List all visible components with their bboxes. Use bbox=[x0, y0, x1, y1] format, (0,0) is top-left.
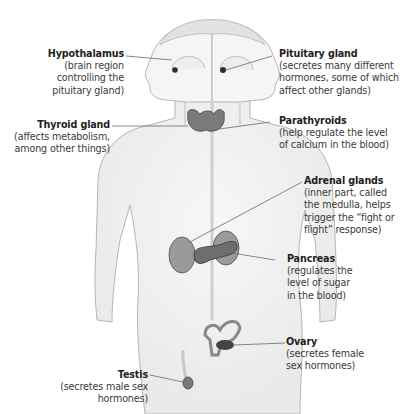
label-desc: flight” response) bbox=[304, 224, 415, 236]
label-desc: pituitary gland) bbox=[36, 85, 124, 97]
endocrine-diagram: Hypothalamus (brain region controlling t… bbox=[0, 0, 415, 414]
left-kidney-adrenal bbox=[169, 237, 195, 273]
label-desc: (affects metabolism, bbox=[2, 131, 110, 143]
label-desc: (inner part, called bbox=[304, 187, 415, 199]
label-title: Ovary bbox=[286, 336, 414, 348]
label-desc: (help regulate the level bbox=[279, 127, 415, 139]
label-title: Pituitary gland bbox=[279, 48, 415, 60]
label-desc: hormones, some of which bbox=[279, 72, 415, 84]
label-desc: sex hormones) bbox=[286, 360, 414, 372]
label-desc: (brain region bbox=[36, 60, 124, 72]
label-title: Adrenal glands bbox=[304, 175, 415, 187]
thyroid-gland bbox=[188, 110, 225, 132]
label-desc: hormones) bbox=[30, 393, 148, 405]
label-ovary: Ovary (secretes female sex hormones) bbox=[286, 336, 414, 373]
label-desc: (secretes male sex bbox=[30, 381, 148, 393]
label-testis: Testis (secretes male sex hormones) bbox=[30, 369, 148, 406]
testis-gland bbox=[183, 377, 193, 389]
label-parathyroids: Parathyroids (help regulate the level of… bbox=[279, 115, 415, 152]
label-desc: level of sugar bbox=[287, 277, 415, 289]
label-thyroid: Thyroid gland (affects metabolism, among… bbox=[2, 119, 110, 156]
label-desc: the medulla, helps bbox=[304, 199, 415, 211]
hypothalamus-gland bbox=[172, 67, 178, 73]
label-desc: affect other glands) bbox=[279, 85, 415, 97]
label-title: Hypothalamus bbox=[36, 48, 124, 60]
label-hypothalamus: Hypothalamus (brain region controlling t… bbox=[36, 48, 124, 97]
label-desc: (regulates the bbox=[287, 265, 415, 277]
ovary-gland bbox=[216, 340, 234, 350]
label-adrenal: Adrenal glands (inner part, called the m… bbox=[304, 175, 415, 236]
label-desc: controlling the bbox=[36, 72, 124, 84]
label-title: Thyroid gland bbox=[2, 119, 110, 131]
label-desc: trigger the “fight or bbox=[304, 212, 415, 224]
label-pituitary: Pituitary gland (secretes many different… bbox=[279, 48, 415, 97]
label-title: Testis bbox=[30, 369, 148, 381]
pituitary-gland bbox=[220, 67, 226, 73]
label-desc: (secretes female bbox=[286, 348, 414, 360]
label-pancreas: Pancreas (regulates the level of sugar i… bbox=[287, 253, 415, 302]
label-desc: among other things) bbox=[2, 143, 110, 155]
label-title: Pancreas bbox=[287, 253, 415, 265]
label-desc: in the blood) bbox=[287, 290, 415, 302]
label-desc: of calcium in the blood) bbox=[279, 139, 415, 151]
label-desc: (secretes many different bbox=[279, 60, 415, 72]
label-title: Parathyroids bbox=[279, 115, 415, 127]
